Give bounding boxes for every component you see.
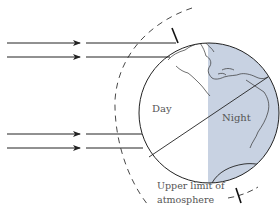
atmosphere-label-line2: atmosphere bbox=[157, 194, 214, 205]
day-label: Day bbox=[152, 103, 172, 114]
night-label: Night bbox=[222, 112, 251, 123]
sun-rays bbox=[7, 43, 176, 148]
atmosphere-label-line1: Upper limit of bbox=[157, 180, 226, 191]
top-tick-mark bbox=[172, 28, 178, 43]
atmosphere-boundary-arc-lower bbox=[228, 187, 258, 198]
earth-illumination-diagram: Day Night Upper limit of atmosphere bbox=[0, 0, 280, 214]
